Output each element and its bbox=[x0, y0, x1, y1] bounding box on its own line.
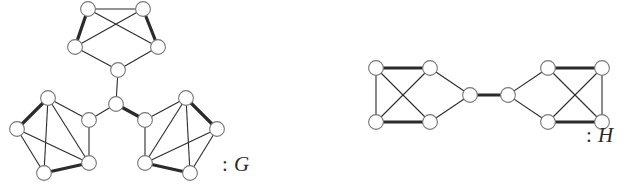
graph-vertex bbox=[136, 2, 151, 17]
graph-vertex bbox=[81, 2, 96, 17]
graph-vertex bbox=[151, 40, 166, 55]
graph-h-label-name: H bbox=[598, 123, 614, 147]
graph-vertex bbox=[82, 156, 97, 171]
graph-vertex bbox=[210, 122, 225, 137]
graph-g-label: : G bbox=[222, 152, 250, 177]
graph-vertex bbox=[37, 166, 52, 181]
graph-vertex bbox=[541, 61, 556, 76]
graph-vertex bbox=[10, 122, 25, 137]
graph-h-label-colon: : bbox=[586, 123, 592, 147]
graph-vertex bbox=[369, 61, 384, 76]
graph-vertex bbox=[369, 115, 384, 130]
graph-vertex bbox=[82, 113, 97, 128]
graph-vertex bbox=[423, 61, 438, 76]
graph-g-label-colon: : bbox=[222, 152, 228, 176]
graph-vertex bbox=[138, 156, 153, 171]
graph-vertex bbox=[109, 97, 124, 112]
graph-g-label-name: G bbox=[234, 152, 250, 176]
graph-vertex bbox=[463, 88, 478, 103]
graph-vertex bbox=[138, 113, 153, 128]
graph-vertex bbox=[423, 115, 438, 130]
graph-vertex bbox=[68, 40, 83, 55]
graph-vertex bbox=[41, 91, 56, 106]
graph-vertex bbox=[541, 115, 556, 130]
graph-vertex bbox=[595, 61, 610, 76]
graph-vertex bbox=[183, 166, 198, 181]
graph-vertex bbox=[111, 63, 126, 78]
nodes-layer bbox=[10, 2, 610, 181]
graph-diagram-canvas bbox=[0, 0, 629, 189]
graph-edge bbox=[44, 98, 48, 173]
graph-vertex bbox=[179, 91, 194, 106]
graph-vertex bbox=[501, 88, 516, 103]
graph-edge bbox=[186, 98, 190, 173]
graph-h-edges bbox=[376, 68, 602, 122]
graph-h-label: : H bbox=[586, 123, 614, 148]
figure-container: : G : H bbox=[0, 0, 629, 189]
